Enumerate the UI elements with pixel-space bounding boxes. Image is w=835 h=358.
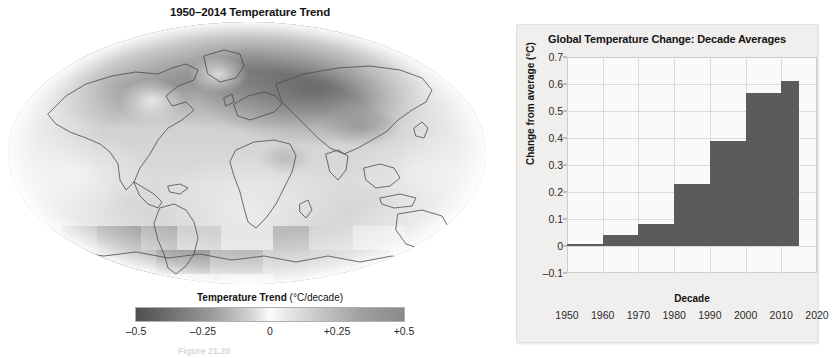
x-tick-label: 1990 [698, 309, 721, 321]
y-axis-label: Change from average (°C) [525, 42, 536, 165]
x-tick-label: 1950 [555, 309, 578, 321]
bar-2000 [746, 93, 782, 246]
robinson-projection-globe [8, 22, 486, 284]
x-tick-label: 1970 [627, 309, 650, 321]
y-tick-label: 0.1 [548, 213, 563, 225]
figure-caption: Figure 21.20 [178, 346, 231, 356]
y-tick-mark [563, 273, 567, 274]
colorbar-tick-labels: –0.5 –0.25 0 +0.25 +0.5 [120, 325, 420, 339]
chart-title: Global Temperature Change: Decade Averag… [517, 33, 817, 45]
world-map-figure [8, 22, 486, 284]
y-tick-label: 0.6 [548, 78, 563, 90]
x-tick-label: 2010 [770, 309, 793, 321]
colorbar-gradient [135, 307, 405, 322]
bars-layer [567, 57, 817, 273]
x-tick-label: 2020 [805, 309, 828, 321]
colorbar-title: Temperature Trend (°C/decade) [120, 291, 420, 304]
bar-1980 [674, 184, 710, 246]
y-tick-label: 0.3 [548, 159, 563, 171]
bar-2010 [781, 81, 799, 246]
coastline-overlay [8, 22, 486, 284]
x-tick-label: 2000 [734, 309, 757, 321]
bar-1960 [603, 235, 639, 246]
bar-1990 [710, 141, 746, 246]
temperature-trend-map-panel: 1950–2014 Temperature Trend [0, 0, 500, 358]
y-tick-label: –0.1 [543, 267, 563, 279]
colorbar-tick-4: +0.5 [394, 325, 415, 337]
y-tick-label: 0.4 [548, 132, 563, 144]
x-tick-label: 1960 [591, 309, 614, 321]
y-tick-mark [563, 219, 567, 220]
bar-1950 [567, 244, 603, 246]
colorbar-title-unit: (°C/decade) [290, 292, 343, 303]
colorbar-tick-1: –0.25 [190, 325, 216, 337]
x-axis-label: Decade [567, 293, 817, 304]
colorbar-tick-0: –0.5 [126, 325, 146, 337]
y-tick-mark [563, 111, 567, 112]
y-tick-mark [563, 138, 567, 139]
colorbar-tick-3: +0.25 [324, 325, 351, 337]
plot-area: 0.70.60.50.40.30.20.10–0.1 1950196019701… [567, 57, 817, 273]
colorbar-legend: Temperature Trend (°C/decade) –0.5 –0.25… [120, 291, 420, 339]
y-tick-mark [563, 165, 567, 166]
y-tick-mark [563, 84, 567, 85]
y-tick-mark [563, 192, 567, 193]
gridline-vertical [817, 57, 818, 273]
y-tick-label: 0.5 [548, 105, 563, 117]
colorbar-title-main: Temperature Trend [197, 292, 287, 303]
y-tick-mark [563, 57, 567, 58]
x-tick-label: 1980 [662, 309, 685, 321]
colorbar-tick-2: 0 [267, 325, 273, 337]
y-tick-label: 0.7 [548, 51, 563, 63]
map-title: 1950–2014 Temperature Trend [0, 6, 500, 18]
bar-1970 [638, 224, 674, 246]
figure-root: 1950–2014 Temperature Trend [0, 0, 835, 358]
y-tick-label: 0.2 [548, 186, 563, 198]
y-tick-mark [563, 246, 567, 247]
decade-averages-chart-panel: Global Temperature Change: Decade Averag… [516, 24, 818, 343]
